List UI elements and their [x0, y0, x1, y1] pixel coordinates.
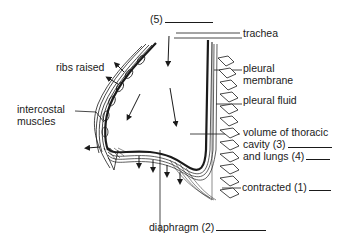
- answer-blank-2[interactable]: [216, 222, 266, 231]
- label-ribs-raised: ribs raised: [56, 61, 104, 73]
- label-pleural-membrane-2: membrane: [243, 74, 293, 86]
- label-pleural-fluid: pleural fluid: [243, 94, 297, 106]
- label-blank-5: (5): [150, 13, 213, 25]
- label-intercostal-1: intercostal: [17, 103, 65, 115]
- answer-blank-5[interactable]: [165, 14, 213, 23]
- label-diaphragm: diaphragm (2): [149, 221, 266, 233]
- answer-blank-1[interactable]: [309, 182, 331, 191]
- movement-arrows: [87, 36, 180, 182]
- answer-blank-3[interactable]: [288, 139, 332, 148]
- label-intercostal-2: muscles: [17, 115, 56, 127]
- spine-vertebrae: [218, 56, 239, 198]
- label-volume-1: volume of thoracic: [243, 126, 328, 138]
- label-pleural-membrane-1: pleural: [243, 62, 275, 74]
- answer-blank-4[interactable]: [306, 151, 330, 160]
- label-trachea: trachea: [243, 27, 278, 39]
- label-volume-2: cavity (3): [243, 138, 332, 150]
- thorax-diagram: (5) trachea ribs raised pleural membrane…: [0, 0, 360, 251]
- label-volume-3: and lungs (4): [243, 150, 330, 162]
- label-contracted: contracted (1): [242, 181, 331, 193]
